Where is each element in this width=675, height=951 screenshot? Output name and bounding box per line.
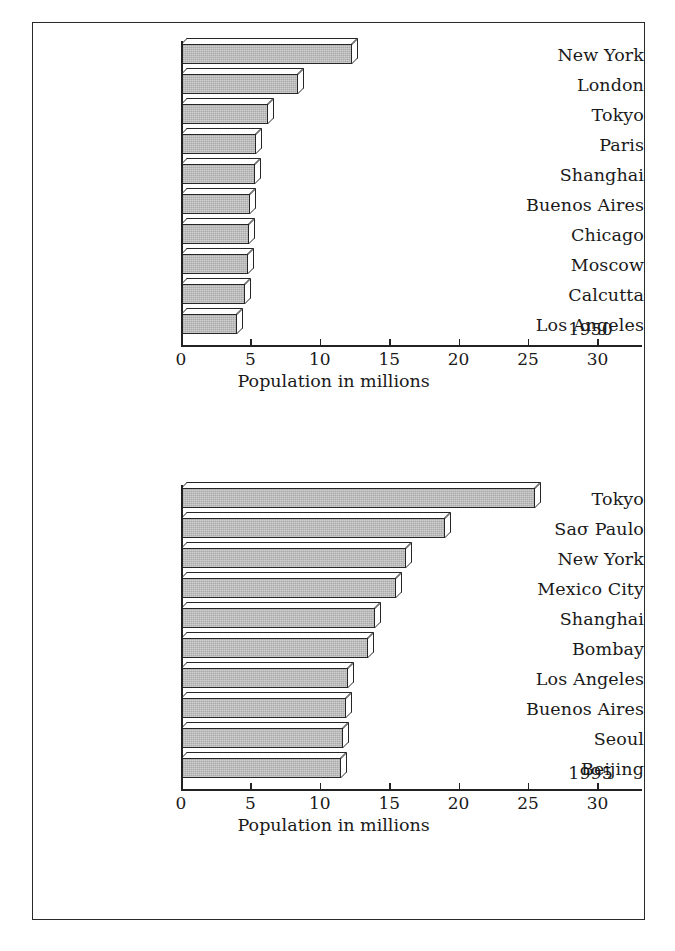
bar — [181, 638, 368, 658]
x-axis-tick-label: 0 — [176, 793, 187, 813]
x-axis-tick-label: 30 — [587, 793, 609, 813]
bar-row: Shanghai — [33, 605, 644, 635]
bar — [181, 668, 348, 688]
x-axis-tick-label: 10 — [309, 793, 331, 813]
bar-track — [181, 221, 644, 251]
bar — [181, 194, 250, 214]
bar — [181, 728, 343, 748]
year-annotation: 1950 — [568, 319, 613, 339]
x-axis-tick-label: 0 — [176, 349, 187, 369]
bar-front-face — [181, 104, 268, 124]
bar-front-face — [181, 44, 352, 64]
bar — [181, 254, 248, 274]
bar — [181, 44, 352, 64]
y-axis-line — [181, 41, 183, 345]
bar-track — [181, 281, 644, 311]
bar-row: New York — [33, 41, 644, 71]
x-axis-tick-label: 25 — [517, 349, 539, 369]
bar — [181, 134, 256, 154]
bar-track — [181, 131, 644, 161]
bar-row: Buenos Aires — [33, 695, 644, 725]
bar-row: Seoul — [33, 725, 644, 755]
x-axis-tick — [320, 339, 321, 345]
x-axis-tick-label: 5 — [245, 349, 256, 369]
bar-row: Tokyo — [33, 101, 644, 131]
chart-1995-axis: 051015202530Population in millions1995 — [181, 789, 648, 829]
x-axis-title: Population in millions — [238, 371, 430, 391]
bar-track — [181, 695, 644, 725]
bar-track — [181, 71, 644, 101]
bar-front-face — [181, 134, 256, 154]
x-axis-tick — [528, 339, 529, 345]
bar — [181, 104, 268, 124]
bar-row: Buenos Aires — [33, 191, 644, 221]
bar-track — [181, 515, 644, 545]
x-axis-line — [181, 345, 642, 347]
bar — [181, 758, 341, 778]
bar — [181, 164, 255, 184]
bar — [181, 314, 237, 334]
bar-row: Chicago — [33, 221, 644, 251]
bar — [181, 698, 346, 718]
x-axis-line — [181, 789, 642, 791]
chart-1995-rows: TokyoSaσ PauloNew YorkMexico CityShangha… — [33, 485, 644, 785]
x-axis-tick — [459, 783, 460, 789]
bar-track — [181, 251, 644, 281]
bar-row: Moscow — [33, 251, 644, 281]
bar-track — [181, 575, 644, 605]
x-axis-tick — [250, 339, 251, 345]
bar-track — [181, 545, 644, 575]
bar-track — [181, 485, 644, 515]
x-axis-tick — [459, 339, 460, 345]
x-axis-tick-label: 10 — [309, 349, 331, 369]
bar-front-face — [181, 608, 375, 628]
x-axis-tick — [389, 783, 390, 789]
bar-front-face — [181, 518, 445, 538]
chart-1995: TokyoSaσ PauloNew YorkMexico CityShangha… — [33, 471, 644, 921]
bar-front-face — [181, 224, 249, 244]
x-axis-tick — [597, 339, 598, 345]
bar-row: Calcutta — [33, 281, 644, 311]
x-axis-tick — [597, 783, 598, 789]
bar-front-face — [181, 728, 343, 748]
bar-row: New York — [33, 545, 644, 575]
x-axis-tick — [250, 783, 251, 789]
bar-track — [181, 191, 644, 221]
bar-front-face — [181, 74, 298, 94]
bar — [181, 578, 396, 598]
bar-front-face — [181, 578, 396, 598]
chart-1950: New YorkLondonTokyoParisShanghaiBuenos A… — [33, 23, 644, 455]
bar-row: Tokyo — [33, 485, 644, 515]
bar-track — [181, 635, 644, 665]
x-axis-tick — [320, 783, 321, 789]
bar-front-face — [181, 488, 535, 508]
x-axis-tick — [389, 339, 390, 345]
figure-frame: New YorkLondonTokyoParisShanghaiBuenos A… — [32, 22, 645, 920]
bar-front-face — [181, 758, 341, 778]
x-axis-tick-label: 5 — [245, 793, 256, 813]
bar — [181, 224, 249, 244]
bar — [181, 518, 445, 538]
bar-row: Saσ Paulo — [33, 515, 644, 545]
bar — [181, 488, 535, 508]
bar-front-face — [181, 698, 346, 718]
bar-front-face — [181, 668, 348, 688]
bar-row: Los Angeles — [33, 311, 644, 341]
year-annotation: 1995 — [568, 763, 613, 783]
x-axis-tick-label: 25 — [517, 793, 539, 813]
bar-row: Paris — [33, 131, 644, 161]
figure-page: New YorkLondonTokyoParisShanghaiBuenos A… — [0, 0, 675, 951]
bar-row: London — [33, 71, 644, 101]
bar-front-face — [181, 314, 237, 334]
bar — [181, 548, 406, 568]
bar-track — [181, 605, 644, 635]
bar-row: Beijing — [33, 755, 644, 785]
bar-front-face — [181, 284, 245, 304]
x-axis-tick-label: 20 — [448, 349, 470, 369]
bar — [181, 608, 375, 628]
x-axis-tick-label: 20 — [448, 793, 470, 813]
bar-track — [181, 665, 644, 695]
bar — [181, 74, 298, 94]
bar-track — [181, 725, 644, 755]
x-axis-tick-label: 15 — [378, 349, 400, 369]
